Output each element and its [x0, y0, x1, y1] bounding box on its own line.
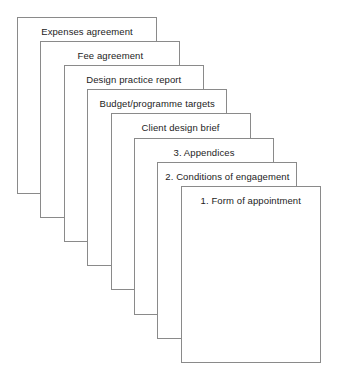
document-card-label: Expenses agreement	[18, 18, 156, 37]
document-card[interactable]: 1. Form of appointment	[181, 186, 321, 363]
document-card-label: Budget/programme targets	[88, 90, 226, 109]
document-card-label: Client design brief	[112, 114, 250, 133]
document-card-label: 1. Form of appointment	[182, 187, 320, 206]
document-stack-diagram: Expenses agreement Fee agreement Design …	[0, 0, 338, 378]
document-card-label: Design practice report	[65, 66, 203, 85]
document-card-label: 3. Appendices	[135, 139, 273, 158]
document-card-label: 2. Conditions of engagement	[158, 163, 296, 182]
document-card-label: Fee agreement	[41, 42, 179, 61]
